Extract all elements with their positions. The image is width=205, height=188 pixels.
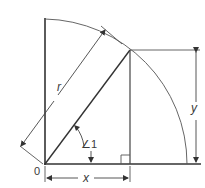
x-label: x (83, 172, 89, 184)
y-label: y (190, 102, 198, 114)
right-angle-marker (121, 155, 130, 164)
r-dimension-line (58, 30, 105, 95)
angle-label: ∠1 (81, 138, 97, 150)
r-extension-bottom (20, 146, 43, 164)
radius-label: r (57, 81, 61, 93)
quarter-circle-arc (45, 19, 187, 164)
diagram-canvas (0, 0, 205, 188)
r-extension-top (101, 26, 122, 44)
origin-label: 0 (34, 165, 40, 177)
